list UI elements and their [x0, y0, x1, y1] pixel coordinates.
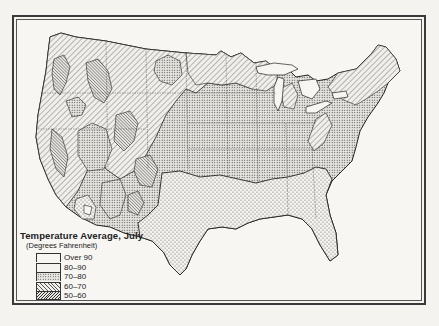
region-80-90-south [138, 167, 338, 275]
legend-item-over-90: Over 90 [36, 253, 140, 263]
swatch-sparse-dots [36, 263, 61, 272]
swatch-blank [36, 253, 61, 262]
legend-label: 50–60 [64, 291, 86, 300]
swatch-dense-hatch [36, 291, 61, 300]
legend-label: 80–90 [64, 263, 86, 272]
legend-label: 70–80 [64, 272, 86, 281]
swatch-light-hatch [36, 282, 61, 291]
legend-label: 60–70 [64, 282, 86, 291]
legend-item-80-90: 80–90 [36, 263, 140, 273]
swatch-dense-dots [36, 272, 61, 281]
legend-subtitle: (Degrees Fahrenheit) [26, 241, 140, 250]
legend-item-50-60: 50–60 [36, 291, 140, 301]
legend-label: Over 90 [64, 253, 92, 262]
map-legend: Temperature Average, July (Degrees Fahre… [20, 230, 140, 301]
legend-item-60-70: 60–70 [36, 282, 140, 292]
legend-items: Over 90 80–90 70–80 60–70 50–60 [36, 253, 140, 301]
legend-title: Temperature Average, July [20, 230, 140, 241]
legend-item-70-80: 70–80 [36, 272, 140, 282]
